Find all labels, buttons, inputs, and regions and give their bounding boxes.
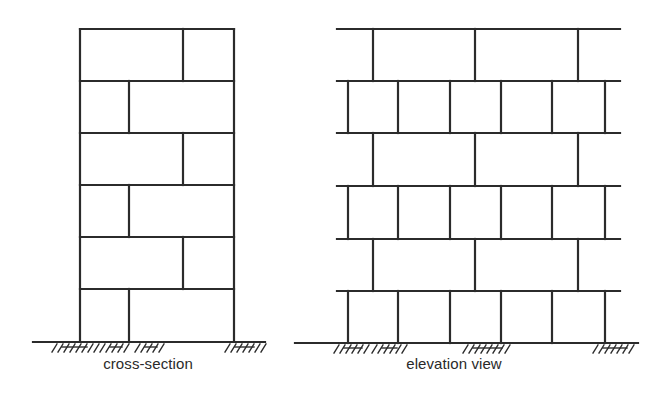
ground-hatch (70, 344, 75, 352)
ground-hatch (58, 344, 63, 352)
ground-hatch (611, 345, 616, 353)
ground-hatch (493, 345, 498, 353)
ground-hatch (364, 345, 369, 353)
ground-hatch (346, 345, 351, 353)
ground-hatch (378, 345, 383, 353)
ground-hatch (396, 345, 401, 353)
ground-hatch (340, 345, 345, 353)
ground-hatch (487, 345, 492, 353)
ground-hatch (52, 344, 57, 352)
ground-hatch (261, 344, 266, 352)
ground-hatch (593, 345, 598, 353)
ground-hatch (623, 345, 628, 353)
ground-hatch (124, 344, 129, 352)
ground-hatch (463, 345, 468, 353)
ground-hatch (88, 344, 93, 352)
masonry-wall-diagram (0, 0, 667, 395)
ground-hatch (481, 345, 486, 353)
elevation-view-label: elevation view (406, 355, 502, 372)
ground-hatch (475, 345, 480, 353)
ground-hatch (94, 344, 99, 352)
ground-hatch (469, 345, 474, 353)
ground-hatch (505, 345, 510, 353)
ground-hatch (100, 344, 105, 352)
ground-hatch (402, 345, 407, 353)
ground-hatch (605, 345, 610, 353)
ground-hatch (599, 345, 604, 353)
ground-hatch (255, 344, 260, 352)
ground-hatch (249, 344, 254, 352)
ground-hatch (384, 345, 389, 353)
ground-hatch (499, 345, 504, 353)
ground-hatch (390, 345, 395, 353)
ground-hatch (153, 344, 158, 352)
ground-hatch (372, 345, 377, 353)
ground-hatch (243, 344, 248, 352)
ground-hatch (135, 344, 140, 352)
cross-section-label: cross-section (103, 355, 193, 372)
ground-hatch (147, 344, 152, 352)
ground-hatch (352, 345, 357, 353)
ground-hatch (76, 344, 81, 352)
ground-hatch (64, 344, 69, 352)
ground-hatch (334, 345, 339, 353)
ground-hatch (231, 344, 236, 352)
ground-hatch (112, 344, 117, 352)
ground-hatch (617, 345, 622, 353)
ground-hatch (159, 344, 164, 352)
ground-hatch (106, 344, 111, 352)
elevation-view-drawing (295, 29, 638, 353)
ground-hatch (358, 345, 363, 353)
ground-hatch (141, 344, 146, 352)
ground-hatch (225, 344, 230, 352)
ground-hatch (118, 344, 123, 352)
cross-section-drawing (33, 29, 266, 352)
ground-hatch (237, 344, 242, 352)
ground-hatch (629, 345, 634, 353)
ground-hatch (82, 344, 87, 352)
